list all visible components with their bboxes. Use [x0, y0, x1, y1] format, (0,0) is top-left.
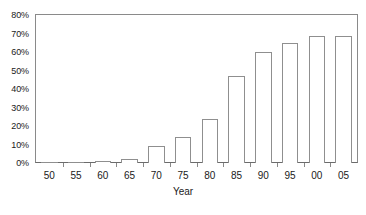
x-axis-tick: [90, 163, 91, 167]
x-axis-tick-label: 95: [285, 170, 296, 182]
bar: [148, 146, 165, 163]
y-axis-tick-label: 50%: [11, 66, 29, 75]
bar: [228, 76, 245, 163]
y-axis-tick-label: 20%: [11, 122, 29, 131]
y-axis-tick-label: 0%: [16, 159, 29, 168]
caption-fragment: [0, 205, 366, 215]
x-axis-tick: [170, 163, 171, 167]
bar: [202, 119, 219, 163]
x-axis-tick-label: 55: [71, 170, 82, 182]
x-axis-tick-label: 75: [178, 170, 189, 182]
x-axis-tick-label: 65: [124, 170, 135, 182]
y-axis-tick-label: 80%: [11, 11, 29, 20]
x-axis-tick-label: 60: [97, 170, 108, 182]
x-axis-tick-label: 90: [258, 170, 269, 182]
y-axis-tick-label: 40%: [11, 85, 29, 94]
x-axis-tick-label: 70: [151, 170, 162, 182]
x-axis-tick: [223, 163, 224, 167]
x-axis-tick: [63, 163, 64, 167]
bar: [175, 137, 192, 163]
x-axis-tick: [250, 163, 251, 167]
x-axis-tick: [197, 163, 198, 167]
bar: [335, 36, 352, 163]
y-axis-tick-label: 10%: [11, 140, 29, 149]
x-axis-tick-label: 80: [204, 170, 215, 182]
x-axis-tick-label: 50: [44, 170, 55, 182]
y-axis-tick-labels: 0%10%20%30%40%50%60%70%80%: [0, 0, 33, 215]
x-axis-tick-label: 85: [231, 170, 242, 182]
x-axis-tick-labels: 505560657075808590950005: [36, 170, 357, 184]
x-axis-tick: [304, 163, 305, 167]
bar: [255, 52, 272, 163]
y-axis-tick-label: 70%: [11, 29, 29, 38]
bar: [282, 43, 299, 163]
x-axis-tick: [330, 163, 331, 167]
bar-chart: 0%10%20%30%40%50%60%70%80% 5055606570758…: [0, 0, 366, 215]
bar: [309, 36, 326, 163]
y-axis-tick-label: 60%: [11, 48, 29, 57]
y-axis-tick-label: 30%: [11, 103, 29, 112]
bars-layer: [36, 15, 357, 163]
x-axis-title: Year: [0, 186, 366, 198]
x-axis-tick-label: 00: [311, 170, 322, 182]
x-axis-tick-label: 05: [338, 170, 349, 182]
x-axis-tick: [277, 163, 278, 167]
x-axis-tick: [143, 163, 144, 167]
x-axis-tick: [116, 163, 117, 167]
x-axis-ticks: [36, 163, 357, 168]
